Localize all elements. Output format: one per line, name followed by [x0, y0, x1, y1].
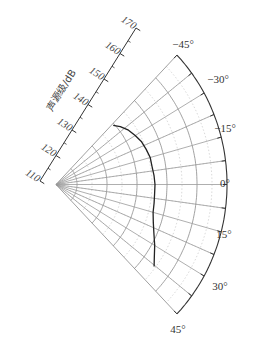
- radial-tick-label: 170: [119, 13, 139, 31]
- radial-axis: 110120130140150160170声源级/dB: [24, 13, 141, 184]
- angle-label: 15°: [216, 228, 231, 240]
- angle-tick: [201, 274, 204, 276]
- angle-tick: [174, 55, 177, 58]
- angle-label: −15°: [214, 122, 236, 134]
- radial-line: [56, 93, 204, 184]
- radial-tick: [120, 54, 124, 57]
- angle-tick: [210, 114, 214, 116]
- radial-minor-tick: [80, 117, 83, 119]
- radial-tick-label: 140: [71, 90, 91, 108]
- radial-line: [56, 137, 221, 184]
- angle-label: 0°: [220, 177, 230, 189]
- radial-tick-label: 130: [55, 115, 75, 133]
- radial-minor-tick: [48, 168, 51, 170]
- polar-chart: 110120130140150160170声源级/dB −45°−30°−15°…: [0, 0, 259, 346]
- radial-line: [56, 185, 214, 255]
- radial-line: [56, 185, 177, 314]
- angle-tick: [217, 137, 221, 138]
- radial-line: [56, 185, 221, 232]
- radial-tick: [72, 130, 76, 133]
- radial-tick-label: 150: [87, 64, 107, 82]
- radial-line: [56, 185, 226, 209]
- angle-tick: [210, 253, 214, 255]
- radial-tick: [136, 28, 140, 31]
- radial-tick-label: 120: [39, 141, 59, 159]
- angle-tick: [174, 311, 177, 314]
- angle-tick: [222, 161, 226, 162]
- radial-line: [56, 185, 204, 276]
- angle-label: 45°: [170, 323, 185, 335]
- radial-tick: [88, 105, 92, 108]
- radial-line: [56, 114, 214, 184]
- angle-label: 30°: [212, 280, 227, 292]
- radial-minor-tick: [112, 66, 115, 68]
- data-curve: [113, 125, 155, 266]
- radial-tick: [56, 156, 60, 159]
- radial-tick-label: 110: [24, 167, 43, 185]
- radial-line: [56, 185, 192, 296]
- angle-tick: [201, 93, 204, 95]
- angle-tick: [188, 293, 191, 296]
- source-level-curve: [113, 125, 155, 266]
- radial-axis-title: 声源级/dB: [43, 67, 78, 113]
- radial-tick: [104, 79, 108, 82]
- angle-label: −30°: [207, 73, 229, 85]
- angle-label: −45°: [172, 38, 194, 50]
- radial-line: [56, 161, 226, 185]
- radial-tick-label: 160: [103, 39, 123, 57]
- radial-tick: [40, 181, 44, 184]
- angle-tick: [188, 73, 191, 76]
- radial-minor-tick: [64, 143, 67, 145]
- angle-tick: [222, 208, 226, 209]
- radial-minor-tick: [96, 92, 99, 94]
- radial-minor-tick: [128, 41, 131, 43]
